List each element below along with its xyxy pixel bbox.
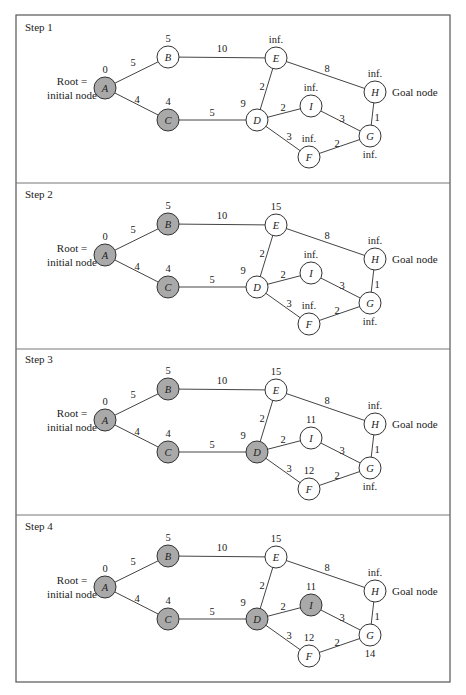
node-label: C bbox=[164, 614, 172, 625]
edge-weight: 2 bbox=[259, 248, 264, 259]
node-label: F bbox=[305, 651, 313, 662]
step-title: Step 4 bbox=[25, 520, 53, 532]
node-label: D bbox=[252, 447, 261, 458]
edge-weight: 1 bbox=[374, 279, 379, 290]
edge-weight: 1 bbox=[374, 112, 379, 123]
root-label: Root = bbox=[57, 574, 87, 586]
distance-label: inf. bbox=[368, 235, 382, 246]
goal-label: Goal node bbox=[392, 253, 438, 265]
edge-weight: 10 bbox=[217, 542, 228, 553]
node-G: Ginf. bbox=[359, 457, 381, 492]
distance-label: 9 bbox=[240, 597, 245, 608]
node-C: C4 bbox=[157, 263, 179, 298]
node-label: I bbox=[308, 268, 313, 279]
edge-weight: 5 bbox=[209, 439, 214, 450]
node-label: A bbox=[101, 83, 109, 94]
edge-weight: 4 bbox=[134, 261, 140, 272]
node-label: I bbox=[308, 101, 313, 112]
node-label: B bbox=[165, 384, 172, 395]
edge-weight: 2 bbox=[280, 102, 285, 113]
distance-label: 9 bbox=[240, 98, 245, 109]
distance-label: 4 bbox=[165, 96, 171, 107]
distance-label: 15 bbox=[271, 366, 282, 377]
distance-label: 15 bbox=[271, 533, 282, 544]
edge-weight: 2 bbox=[280, 269, 285, 280]
distance-label: 0 bbox=[102, 231, 107, 242]
step-panel-1: Step 1541052823321A0B5C4Einf.D9Iinf.Hinf… bbox=[25, 21, 438, 168]
distance-label: 11 bbox=[306, 581, 316, 592]
node-A: A0 bbox=[94, 396, 116, 431]
distance-label: 14 bbox=[365, 648, 376, 659]
edge-D-F bbox=[266, 126, 300, 150]
distance-label: inf. bbox=[363, 149, 377, 160]
edge-H-G bbox=[371, 270, 374, 292]
edge-weight: 3 bbox=[339, 612, 344, 623]
node-E: Einf. bbox=[265, 34, 287, 69]
goal-label: Goal node bbox=[392, 418, 438, 430]
edge-weight: 5 bbox=[209, 107, 214, 118]
edge-weight: 1 bbox=[374, 444, 379, 455]
edge-weight: 1 bbox=[374, 611, 379, 622]
goal-label: Goal node bbox=[392, 86, 438, 98]
edge-A-B bbox=[115, 62, 158, 83]
edge-weight: 10 bbox=[217, 210, 228, 221]
edge-weight: 10 bbox=[217, 43, 228, 54]
node-F: F12 bbox=[298, 465, 320, 500]
node-label: B bbox=[165, 551, 172, 562]
edge-weight: 5 bbox=[130, 57, 135, 68]
edge-weight: 3 bbox=[339, 445, 344, 456]
node-F: Finf. bbox=[298, 300, 320, 335]
edge-H-G bbox=[371, 435, 374, 457]
edge-B-E bbox=[179, 556, 265, 557]
node-A: A0 bbox=[94, 563, 116, 598]
distance-label: 9 bbox=[240, 265, 245, 276]
root-label: Root = bbox=[57, 242, 87, 254]
node-E: E15 bbox=[265, 201, 287, 236]
edge-weight: 2 bbox=[280, 601, 285, 612]
node-label: H bbox=[370, 254, 380, 265]
root-label-sub: initial node bbox=[47, 421, 97, 433]
distance-label: 5 bbox=[165, 532, 170, 543]
node-G: G14 bbox=[359, 624, 381, 659]
node-E: E15 bbox=[265, 533, 287, 568]
distance-label: inf. bbox=[363, 316, 377, 327]
distance-label: inf. bbox=[368, 567, 382, 578]
edge-weight: 4 bbox=[134, 426, 140, 437]
distance-label: 0 bbox=[102, 64, 107, 75]
step-title: Step 3 bbox=[25, 353, 53, 365]
node-C: C4 bbox=[157, 96, 179, 131]
edge-weight: 10 bbox=[217, 375, 228, 386]
edge-weight: 3 bbox=[339, 280, 344, 291]
distance-label: 15 bbox=[271, 201, 282, 212]
distance-label: 4 bbox=[165, 263, 171, 274]
edge-weight: 5 bbox=[130, 556, 135, 567]
distance-label: 12 bbox=[304, 632, 315, 643]
distance-label: inf. bbox=[269, 34, 283, 45]
root-label: Root = bbox=[57, 75, 87, 87]
edge-weight: 8 bbox=[324, 230, 329, 241]
edge-weight: 2 bbox=[259, 413, 264, 424]
node-label: A bbox=[101, 250, 109, 261]
node-label: E bbox=[272, 53, 280, 64]
edge-A-B bbox=[115, 561, 158, 582]
edge-weight: 8 bbox=[324, 395, 329, 406]
edge-weight: 2 bbox=[334, 637, 339, 648]
node-H: Hinf. bbox=[364, 400, 386, 435]
step-title: Step 1 bbox=[25, 21, 53, 33]
node-B: B5 bbox=[157, 532, 179, 567]
node-label: B bbox=[165, 219, 172, 230]
node-label: E bbox=[272, 552, 280, 563]
node-label: E bbox=[272, 220, 280, 231]
root-label-sub: initial node bbox=[47, 89, 97, 101]
node-label: I bbox=[308, 600, 313, 611]
node-label: A bbox=[101, 415, 109, 426]
distance-label: inf. bbox=[302, 133, 316, 144]
root-label: Root = bbox=[57, 407, 87, 419]
node-label: C bbox=[164, 282, 172, 293]
node-E: E15 bbox=[265, 366, 287, 401]
distance-label: 9 bbox=[240, 430, 245, 441]
edge-weight: 4 bbox=[134, 593, 140, 604]
step-panel-2: Step 2541052823321A0B5C4E15D9Iinf.Hinf.G… bbox=[25, 188, 438, 335]
goal-label: Goal node bbox=[392, 585, 438, 597]
edge-D-F bbox=[266, 293, 300, 317]
